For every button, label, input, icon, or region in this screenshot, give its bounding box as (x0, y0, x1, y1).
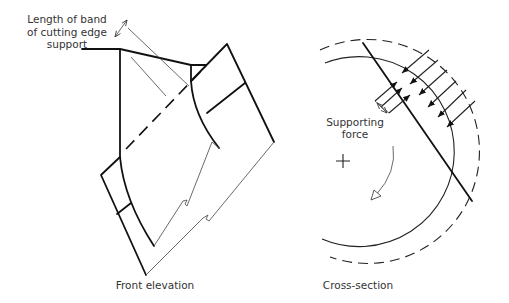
caption-front-elevation: Front elevation (116, 279, 195, 291)
cutting-edge-top (82, 49, 206, 65)
dim-extension-1 (131, 57, 166, 96)
supporting-label-line-2: force (342, 128, 368, 140)
rotation-arrow (376, 146, 394, 195)
lower-curved-face (120, 157, 154, 246)
dim-extension-2 (128, 28, 189, 86)
cross-section: Supporting force Cross-section (320, 39, 479, 291)
outer-dashed-circle (320, 39, 479, 263)
center-marker (336, 154, 350, 168)
support-band-dim (377, 103, 387, 113)
lower-bar (117, 203, 131, 214)
workpiece-circle (322, 57, 454, 247)
support-band-tick (375, 101, 389, 113)
cutter-middle-bar (207, 83, 245, 113)
supporting-label-line-1: Supporting (326, 116, 384, 128)
dashed-tangent (126, 66, 206, 149)
cutter-curved-face (191, 81, 219, 148)
annotation-line-3: support (47, 38, 87, 50)
caption-cross-section: Cross-section (323, 279, 393, 291)
front-elevation: Length of band of cutting edge support F… (27, 13, 274, 291)
dim-arrow (115, 20, 127, 37)
break-line-outer (146, 142, 274, 275)
annotation-line-1: Length of band (27, 13, 106, 25)
break-line-inner (154, 142, 212, 246)
diagram-canvas: Length of band of cutting edge support F… (0, 0, 509, 303)
annotation-line-2: of cutting edge (27, 26, 107, 38)
